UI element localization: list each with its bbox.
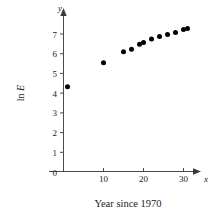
y-tick-label-4: 4 [53,89,58,99]
data-point [149,37,154,42]
y-axis-title: ln E [15,85,26,101]
data-point [121,49,126,54]
x-axis-arrow-icon [193,168,201,174]
data-point [141,40,146,45]
x-tick-label-20: 20 [139,174,149,184]
y-tick-label-7: 7 [53,30,58,40]
data-point [185,26,190,31]
plot-canvas: 0 1 2 3 4 5 6 7 10 20 30 y x ln E Year s… [0,0,218,216]
y-tick-label-0: 0 [53,168,58,178]
y-tick-label-5: 5 [53,69,58,79]
x-axis-variable-label: x [203,174,208,184]
x-tick-label-30: 30 [179,174,189,184]
data-point [129,47,134,52]
y-tick-label-6: 6 [53,49,58,59]
y-axis-variable-label: y [57,3,62,13]
y-axis-ticks [60,34,64,152]
data-point [157,34,162,39]
x-tick-label-10: 10 [99,174,109,184]
y-tick-label-1: 1 [53,148,58,158]
y-tick-label-3: 3 [53,108,58,118]
x-axis-ticks [104,168,184,172]
y-tick-label-2: 2 [53,128,58,138]
scatter-plot-figure: 0 1 2 3 4 5 6 7 10 20 30 y x ln E Year s… [0,0,218,216]
data-point-series [65,26,190,89]
data-point [165,32,170,37]
data-point [173,30,178,35]
data-point [101,60,106,65]
data-point [65,84,70,89]
x-axis-caption: Year since 1970 [94,198,161,209]
